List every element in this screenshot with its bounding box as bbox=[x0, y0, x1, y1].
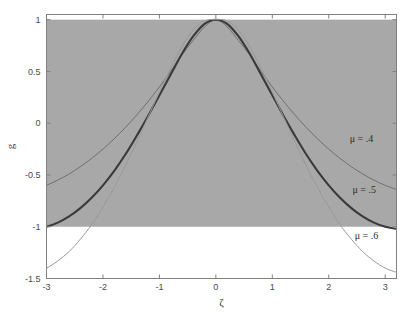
x-tick-label-0: -3 bbox=[42, 282, 50, 292]
x-tick-label-5: 2 bbox=[326, 282, 331, 292]
shaded-band-region bbox=[47, 20, 397, 227]
x-tick-label-1: -2 bbox=[99, 282, 107, 292]
y-tick-label-0: -1.5 bbox=[25, 274, 41, 284]
annotation-mu-3: μ = .6 bbox=[355, 230, 379, 241]
annotation-mu-1: μ = .4 bbox=[350, 133, 374, 144]
x-tick-label-2: -1 bbox=[155, 282, 163, 292]
x-tick-label-3: 0 bbox=[213, 282, 218, 292]
chart-figure: -3-2-10123-1.5-1-0.500.51ζgμ = .4μ = .5μ… bbox=[0, 0, 408, 320]
y-axis-title: g bbox=[4, 143, 16, 149]
x-tick-label-4: 1 bbox=[270, 282, 275, 292]
x-axis-title: ζ bbox=[219, 296, 224, 309]
y-tick-label-2: -0.5 bbox=[25, 170, 41, 180]
y-tick-label-1: -1 bbox=[32, 222, 40, 232]
y-tick-label-4: 0.5 bbox=[28, 67, 41, 77]
g-vs-zeta-line-chart: -3-2-10123-1.5-1-0.500.51ζgμ = .4μ = .5μ… bbox=[0, 0, 408, 320]
annotation-mu-2: μ = .5 bbox=[352, 184, 376, 195]
y-tick-label-3: 0 bbox=[35, 118, 40, 128]
y-tick-label-5: 1 bbox=[35, 15, 40, 25]
x-tick-label-6: 3 bbox=[383, 282, 388, 292]
